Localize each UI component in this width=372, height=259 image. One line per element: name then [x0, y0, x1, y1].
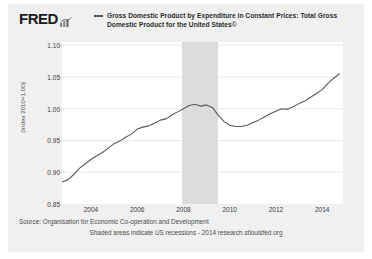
- series-line: [62, 42, 343, 204]
- x-axis-tick-label: 2010: [222, 206, 236, 213]
- fred-chart-card: FRED Gross Domestic Product by Expenditu…: [8, 4, 364, 252]
- legend-series-label: Gross Domestic Product by Expenditure in…: [107, 11, 352, 29]
- plot-area: [62, 42, 343, 204]
- chart-header: FRED Gross Domestic Product by Expenditu…: [8, 4, 364, 36]
- x-axis-tick-label: 2014: [315, 206, 329, 213]
- plot-wrapper: (Index 2010=1.00) 0.850.900.951.001.051.…: [8, 36, 364, 216]
- y-axis-tick-label: 0.90: [12, 169, 60, 176]
- y-axis-tick-label: 1.05: [12, 73, 60, 80]
- y-axis-tick-label: 0.85: [12, 201, 60, 208]
- y-axis-tick-label: 1.10: [12, 42, 60, 49]
- y-axis-tick-label: 0.95: [12, 137, 60, 144]
- chart-footer: Source: Organisation for Economic Co-ope…: [8, 218, 364, 248]
- bar-chart-icon: [60, 13, 72, 23]
- y-axis: (Index 2010=1.00) 0.850.900.951.001.051.…: [8, 42, 60, 204]
- legend-line-swatch: [94, 15, 103, 17]
- chart-legend: Gross Domestic Product by Expenditure in…: [94, 11, 352, 29]
- y-axis-tick-label: 1.00: [12, 105, 60, 112]
- fred-logo: FRED: [19, 10, 58, 27]
- x-axis-tick-label: 2006: [130, 206, 144, 213]
- x-axis: 200420062008201020122014: [62, 206, 343, 218]
- x-axis-tick-label: 2004: [84, 206, 98, 213]
- x-axis-tick-label: 2008: [176, 206, 190, 213]
- x-axis-tick-label: 2012: [269, 206, 283, 213]
- source-text: Source: Organisation for Economic Co-ope…: [19, 218, 209, 225]
- recession-note-text: Shaded areas indicate US recessions - 20…: [8, 229, 364, 236]
